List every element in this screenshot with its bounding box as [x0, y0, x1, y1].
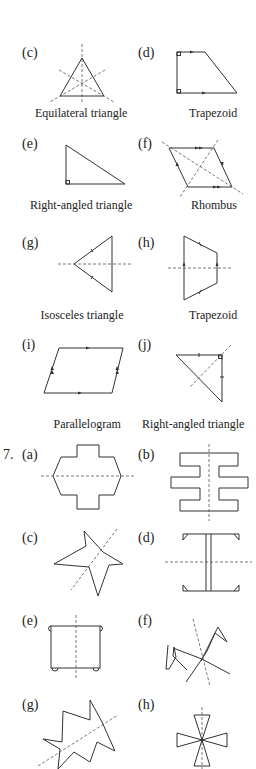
- trapezoid-figure-h: [168, 236, 232, 300]
- symmetric-shape-7d: [165, 534, 252, 591]
- right-angled-triangle-figure-j: [176, 345, 231, 402]
- symmetric-shape-7f: [166, 619, 230, 686]
- symmetric-shape-7a: [41, 445, 134, 509]
- rhombus-figure: [162, 140, 243, 197]
- equilateral-triangle-figure: [50, 44, 114, 104]
- symmetric-shape-7e: [49, 615, 103, 678]
- right-angled-triangle-figure-e: [66, 145, 125, 184]
- isosceles-triangle-figure: [58, 236, 133, 292]
- symmetric-shape-7g: [38, 700, 118, 769]
- parallelogram-figure: [44, 347, 123, 395]
- symmetric-shape-7c: [54, 529, 123, 596]
- symmetric-shape-7b: [171, 444, 248, 521]
- geometry-figures: [0, 0, 256, 769]
- symmetric-shape-7h: [177, 707, 227, 769]
- trapezoid-figure-d: [177, 51, 237, 95]
